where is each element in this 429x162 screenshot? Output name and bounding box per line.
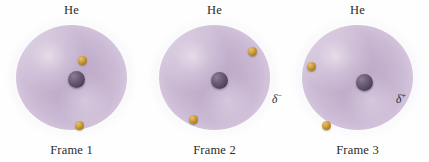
frame-label-1: Frame 1 [0, 143, 143, 158]
electron-1-frame-1 [78, 56, 87, 65]
atom-label-he-frame-1: He [0, 3, 143, 18]
charge-label-delta-plus: δ+ [396, 90, 406, 105]
electron-1-frame-2 [248, 47, 257, 56]
frame-1: He Frame 1 [0, 0, 143, 162]
frame-2: He Frame 2 [143, 0, 286, 162]
electron-1-frame-3 [307, 62, 316, 71]
electron-2-frame-3 [322, 121, 331, 130]
figure-helium-dipole-frames: He Frame 1 He Frame 2 He [0, 0, 429, 162]
nucleus-frame-2 [211, 72, 228, 89]
electron-2-frame-2 [189, 115, 198, 124]
frame-3: He Frame 3 [286, 0, 429, 162]
atom-label-he-frame-3: He [286, 3, 429, 18]
electron-cloud-frame-1 [16, 25, 127, 130]
frame-label-2: Frame 2 [143, 143, 286, 158]
delta-plus-sign: + [401, 90, 406, 100]
electron-cloud-frame-2 [159, 25, 270, 130]
nucleus-frame-1 [68, 71, 85, 88]
nucleus-frame-3 [356, 74, 373, 91]
delta-minus-sign: − [277, 90, 282, 100]
charge-label-delta-minus: δ− [272, 90, 282, 105]
atom-label-he-frame-2: He [143, 3, 286, 18]
electron-2-frame-1 [75, 121, 84, 130]
frame-label-3: Frame 3 [286, 143, 429, 158]
electron-cloud-frame-3 [302, 25, 413, 130]
